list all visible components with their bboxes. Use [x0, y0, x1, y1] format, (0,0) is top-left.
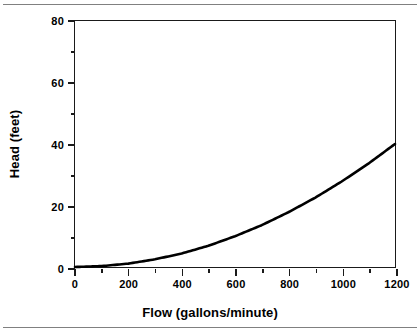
y-tick-minor-70 — [71, 51, 75, 53]
y-axis-title: Head (feet) — [7, 110, 22, 178]
y-tick-minor-10 — [71, 237, 75, 239]
x-tick-label-400: 400 — [173, 278, 192, 290]
x-tick-label-1000: 1000 — [331, 278, 356, 290]
top-divider-rule — [3, 4, 417, 5]
data-curve-svg — [75, 21, 395, 267]
x-tick-1200 — [396, 269, 398, 276]
x-tick-label-200: 200 — [119, 278, 138, 290]
y-tick-minor-30 — [71, 175, 75, 177]
x-tick-label-600: 600 — [227, 278, 246, 290]
x-tick-label-1200: 1200 — [384, 278, 409, 290]
x-axis-title: Flow (gallons/minute) — [0, 305, 420, 320]
x-tick-0 — [74, 269, 76, 276]
x-tick-minor-300 — [155, 269, 157, 273]
y-tick-minor-50 — [71, 113, 75, 115]
x-tick-600 — [235, 269, 237, 276]
y-tick-20 — [68, 206, 75, 208]
x-tick-minor-700 — [262, 269, 264, 273]
x-tick-minor-900 — [316, 269, 318, 273]
plot-area: 020406080020040060080010001200 — [74, 20, 396, 268]
x-tick-label-0: 0 — [72, 278, 78, 290]
x-tick-800 — [289, 269, 291, 276]
x-tick-1000 — [343, 269, 345, 276]
y-tick-60 — [68, 82, 75, 84]
chart-figure: 020406080020040060080010001200 Head (fee… — [0, 0, 420, 335]
head-flow-curve — [75, 144, 395, 267]
y-tick-40 — [68, 144, 75, 146]
y-tick-label-20: 20 — [51, 201, 64, 213]
bottom-divider-rule — [3, 327, 417, 328]
x-tick-200 — [128, 269, 130, 276]
y-tick-label-0: 0 — [58, 263, 64, 275]
x-tick-400 — [182, 269, 184, 276]
y-tick-80 — [68, 20, 75, 22]
y-tick-label-80: 80 — [51, 15, 64, 27]
x-tick-minor-100 — [101, 269, 103, 273]
y-tick-label-40: 40 — [51, 139, 64, 151]
x-tick-minor-1100 — [369, 269, 371, 273]
y-tick-label-60: 60 — [51, 77, 64, 89]
x-tick-label-800: 800 — [280, 278, 299, 290]
x-tick-minor-500 — [208, 269, 210, 273]
